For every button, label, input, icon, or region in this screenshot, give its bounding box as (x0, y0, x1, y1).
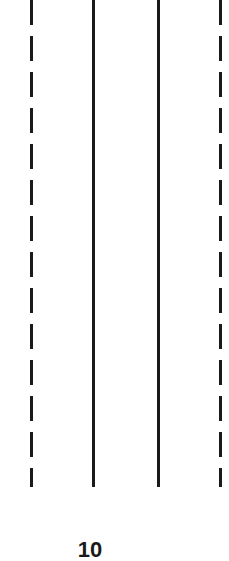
line-solid-center-right (157, 0, 160, 487)
line-dashed-left (30, 0, 33, 487)
line-dashed-right (219, 0, 222, 487)
figure-label: 10 (70, 539, 110, 561)
line-solid-center-left (92, 0, 95, 487)
